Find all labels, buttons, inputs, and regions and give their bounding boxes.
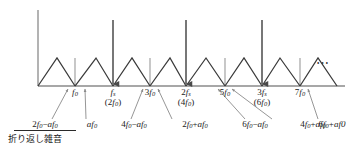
note-label-4f0-minus-af0: 4f0−af0 [105, 120, 163, 130]
note-label-6f0-minus-af0: 6f0−af0 [226, 120, 284, 130]
axis-label-7f0: 7f0 [287, 88, 313, 98]
axis-label-5f0: 5f0 [212, 88, 238, 98]
note-label-6f0-plus-af0: 6f0+af0 [303, 120, 356, 130]
axis-label-2fs: 2fs (4f0) [169, 88, 203, 108]
note-label-af0: af0 [80, 120, 104, 130]
note-label-2f0-minus-af0: 2f0−af0 [14, 120, 76, 131]
tick-marks [75, 58, 300, 86]
note-label-2f0-plus-af0: 2f0+af0 [166, 120, 224, 130]
axis-label-f0: f0 [63, 88, 87, 98]
sampling-impulses [113, 20, 262, 84]
axis-label-fs: fs (2f0) [97, 88, 129, 108]
caption-aliasing-noise: 折り返し雑音 [8, 132, 62, 145]
axis-label-3fs: 3fs (6f0) [245, 88, 279, 108]
spectrum-triangles [38, 58, 337, 86]
axis-label-3f0: 3f0 [137, 88, 163, 98]
ellipsis: ⋯ [316, 55, 331, 71]
